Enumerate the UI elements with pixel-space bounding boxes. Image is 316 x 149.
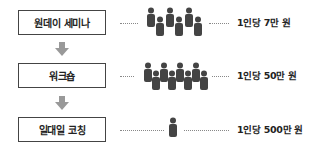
person-icon — [193, 16, 203, 36]
stage-box-one-on-one-coaching: 일대일 코칭 — [18, 117, 106, 142]
dotted-connector — [120, 23, 138, 24]
stage-label: 일대일 코칭 — [39, 122, 86, 137]
dotted-connector — [120, 130, 164, 131]
price-label: 1인당 7만 원 — [237, 17, 290, 29]
dotted-connector — [212, 76, 229, 77]
stage-box-workshop: 워크숍 — [18, 63, 106, 88]
dotted-connector — [120, 76, 134, 77]
price-label: 1인당 50만 원 — [237, 70, 297, 82]
down-arrow-icon — [55, 96, 69, 110]
dotted-connector — [184, 130, 229, 131]
price-label: 1인당 500만 원 — [237, 124, 303, 136]
person-icon — [199, 70, 209, 90]
person-icon — [168, 117, 178, 137]
stage-label: 워크숍 — [49, 68, 75, 83]
person-icon — [174, 16, 184, 36]
stage-box-one-day-seminar: 원데이 세미나 — [18, 10, 106, 35]
down-arrow-icon — [55, 42, 69, 56]
dotted-connector — [209, 23, 229, 24]
stage-label: 원데이 세미나 — [34, 15, 89, 30]
person-icon — [155, 16, 165, 36]
